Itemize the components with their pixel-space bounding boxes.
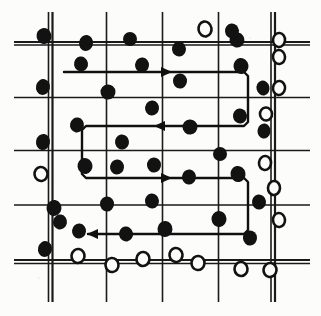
open-point-marker	[234, 262, 248, 277]
open-point-marker	[272, 32, 285, 47]
open-point-marker	[71, 248, 86, 264]
survey-grid-figure	[0, 0, 321, 316]
open-point-marker	[260, 107, 273, 121]
open-point-marker	[191, 255, 205, 270]
open-point-marker	[105, 257, 119, 272]
filled-point-marker	[123, 32, 137, 46]
open-point-marker	[197, 20, 212, 37]
open-point-marker	[136, 252, 150, 267]
open-point-marker	[272, 49, 285, 64]
open-point-marker	[272, 80, 286, 96]
open-point-marker	[268, 181, 281, 196]
open-point-marker	[263, 262, 278, 278]
open-point-marker	[169, 247, 184, 263]
filled-point-marker	[213, 147, 227, 161]
open-point-marker	[34, 166, 49, 182]
diagram-canvas	[0, 0, 321, 316]
open-point-marker	[272, 212, 285, 227]
open-point-marker	[258, 155, 271, 170]
